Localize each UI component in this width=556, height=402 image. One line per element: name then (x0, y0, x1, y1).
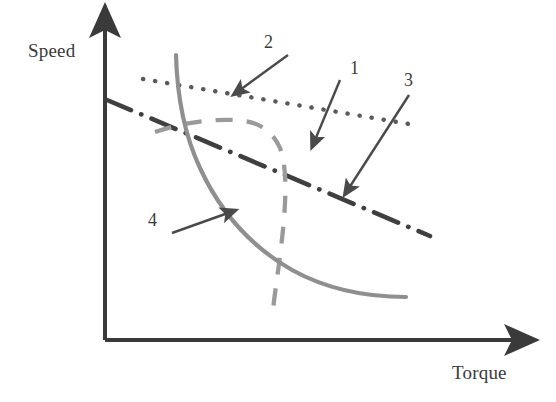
x-axis-label: Torque (452, 362, 507, 384)
callout-arrow-3 (349, 95, 409, 188)
callout-arrow-4 (172, 213, 228, 233)
callout-label-2: 2 (264, 32, 273, 53)
callout-label-3: 3 (404, 70, 413, 91)
callout-arrow-2 (240, 55, 288, 90)
y-axis-label: Speed (28, 40, 75, 62)
chart-canvas (0, 0, 556, 402)
callout-label-4: 4 (148, 210, 157, 231)
speed-torque-schematic-chart: Speed Torque 1 2 3 4 (0, 0, 556, 402)
callout-label-1: 1 (350, 58, 359, 79)
